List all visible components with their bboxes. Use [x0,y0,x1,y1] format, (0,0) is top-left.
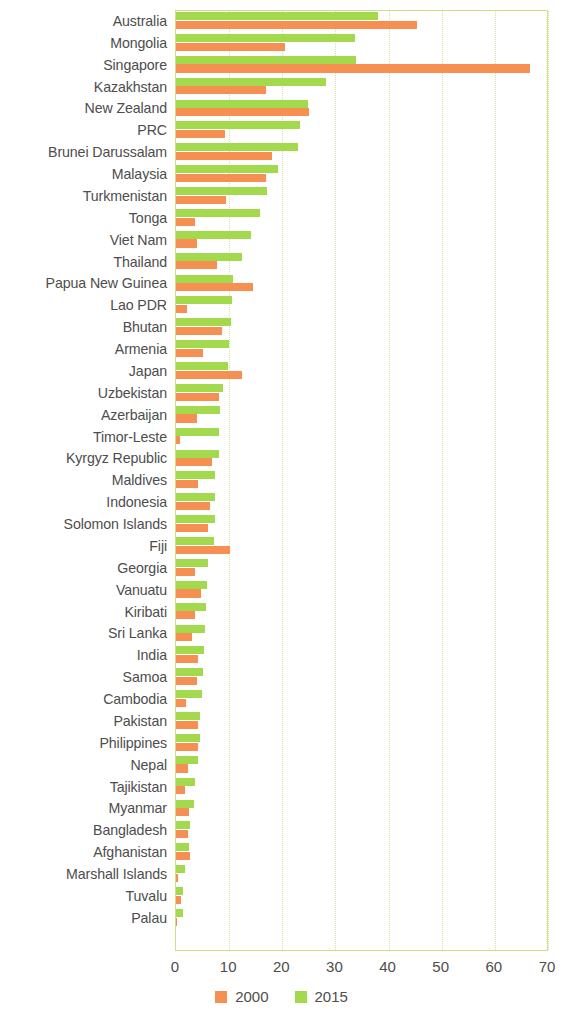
bar-row: Indonesia [0,491,563,513]
bar-row: Kazakhstan [0,76,563,98]
x-tick-label: 10 [220,958,237,975]
bar-2015 [176,471,215,479]
bar-group [176,229,548,251]
category-label: Brunei Darussalam [48,145,167,159]
category-label: Cambodia [103,692,167,706]
category-label: Tonga [129,211,167,225]
bar-row: Tonga [0,207,563,229]
bar-group [176,360,548,382]
bar-2015 [176,821,190,829]
bar-2015 [176,712,200,720]
category-label: Maldives [112,473,167,487]
bar-2015 [176,406,220,414]
bar-row: Thailand [0,251,563,273]
bar-row: Sri Lanka [0,623,563,645]
bar-row: Myanmar [0,798,563,820]
bar-2015 [176,318,231,326]
bar-2015 [176,165,278,173]
bar-2000 [176,305,187,313]
bar-2015 [176,559,208,567]
bar-2015 [176,12,378,20]
bar-2015 [176,209,260,217]
category-label: Samoa [123,670,167,684]
bar-group [176,798,548,820]
bar-2015 [176,515,215,523]
bar-2015 [176,253,242,261]
bar-2015 [176,690,202,698]
x-axis: 010203040506070 [175,952,548,978]
bar-row: Malaysia [0,163,563,185]
bar-group [176,448,548,470]
category-label: Papua New Guinea [46,276,167,290]
bar-group [176,841,548,863]
bar-row: Australia [0,10,563,32]
bar-2015 [176,909,183,917]
category-label: Armenia [115,342,167,356]
bar-2015 [176,362,228,370]
bar-2000 [176,152,272,160]
bar-2000 [176,261,217,269]
bar-row: Turkmenistan [0,185,563,207]
legend-swatch-icon [215,991,227,1003]
bar-row: Philippines [0,732,563,754]
bar-group [176,535,548,557]
bar-2000 [176,896,181,904]
bar-2000 [176,764,188,772]
legend-item[interactable]: 2000 [215,988,268,1005]
x-tick-label: 60 [486,958,503,975]
bar-2015 [176,668,203,676]
bar-row: Maldives [0,469,563,491]
bar-2000 [176,655,198,663]
bar-row: Armenia [0,338,563,360]
bar-2000 [176,699,186,707]
bar-row: Tuvalu [0,885,563,907]
bar-group [176,666,548,688]
bar-2015 [176,34,355,42]
category-label: Philippines [99,736,167,750]
bar-2000 [176,393,219,401]
category-label: Malaysia [112,167,167,181]
bar-2000 [176,852,190,860]
bar-group [176,32,548,54]
bar-2015 [176,296,232,304]
legend-item[interactable]: 2015 [295,988,348,1005]
bar-group [176,141,548,163]
bar-2000 [176,458,212,466]
category-label: Tuvalu [126,889,167,903]
category-label: Palau [131,911,167,925]
bar-2000 [176,174,266,182]
category-label: Sri Lanka [108,626,167,640]
bar-row: Kyrgyz Republic [0,448,563,470]
bar-row: India [0,644,563,666]
bar-group [176,294,548,316]
bar-row: Kiribati [0,601,563,623]
bar-2000 [176,633,192,641]
bar-group [176,426,548,448]
bar-group [176,119,548,141]
bar-row: Japan [0,360,563,382]
bar-2000 [176,743,198,751]
bar-2015 [176,581,207,589]
category-label: Nepal [130,758,167,772]
bar-2015 [176,384,223,392]
category-label: Kazakhstan [94,79,167,93]
bar-row: Fiji [0,535,563,557]
chart-legend: 20002015 [0,988,563,1005]
bar-2015 [176,275,233,283]
bar-group [176,54,548,76]
category-label: Vanuatu [116,583,167,597]
bar-row: Pakistan [0,710,563,732]
bar-group [176,316,548,338]
bar-2015 [176,187,267,195]
category-label: Kyrgyz Republic [66,451,167,465]
bar-group [176,513,548,535]
bar-group [176,776,548,798]
bar-group [176,404,548,426]
bar-group [176,273,548,295]
category-label: Australia [113,14,167,28]
bar-2000 [176,130,225,138]
bar-2015 [176,231,251,239]
bar-2000 [176,524,208,532]
bar-row: Mongolia [0,32,563,54]
category-label: Solomon Islands [64,517,167,531]
